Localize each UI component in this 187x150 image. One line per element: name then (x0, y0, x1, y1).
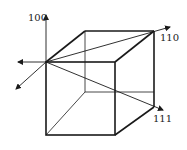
back-bottom-diagonal-edge (46, 92, 85, 135)
top-left-edge (46, 31, 85, 62)
top-right-edge (115, 31, 154, 62)
direction-111-arrow (46, 62, 163, 110)
cube-direction-diagram: 100 110 111 (0, 0, 187, 150)
label-110: 110 (160, 33, 179, 43)
label-100: 100 (28, 13, 47, 23)
label-111: 111 (153, 114, 172, 124)
direction-110-arrow (46, 27, 170, 62)
axis-diagonal-arrow (16, 62, 46, 89)
bottom-right-edge (115, 107, 154, 135)
